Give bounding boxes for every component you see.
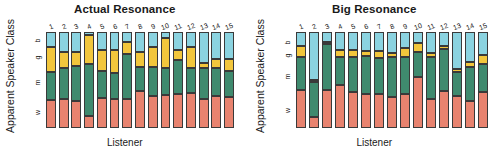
category-tick-label: g (284, 54, 291, 58)
mosaic-segment-b (135, 32, 145, 52)
mosaic-segment-w (387, 97, 397, 128)
column-number-label: 3 (323, 23, 329, 31)
mosaic-segment-b (59, 32, 69, 52)
mosaic-segment-g (186, 47, 196, 68)
mosaic-column: 12 (186, 32, 196, 128)
mosaic-segment-w (135, 91, 145, 128)
mosaic-segment-m (309, 82, 319, 118)
mosaic-column: 4 (84, 32, 94, 128)
mosaic-segment-m (361, 56, 371, 94)
mosaic-segment-w (97, 98, 107, 128)
mosaic-segment-m (71, 66, 81, 102)
mosaic-column: 5 (348, 32, 358, 128)
mosaic-segment-w (110, 99, 120, 128)
mosaic-column: 1 (296, 32, 306, 128)
mosaic-segment-m (348, 57, 358, 92)
column-number-label: 13 (199, 22, 209, 31)
mosaic-column: 8 (387, 32, 397, 128)
mosaic-segment-b (361, 32, 371, 51)
category-tick-g: g (281, 52, 295, 59)
mosaic-segment-w (439, 91, 449, 128)
mosaic-segment-b (46, 32, 56, 47)
column-number-label: 11 (426, 22, 435, 31)
mosaic-segment-g (97, 50, 107, 71)
y-axis-title-text: Apparent Speaker Class (4, 19, 16, 133)
y-axis-title: Apparent Speaker Class (252, 0, 268, 152)
mosaic-segment-b (348, 32, 358, 50)
mosaic-segment-b (199, 32, 209, 63)
mosaic-column: 3 (322, 32, 332, 128)
mosaic-segment-w (148, 96, 158, 128)
mosaic-segment-g (224, 59, 234, 71)
mosaic-segment-b (186, 32, 196, 47)
column-number-label: 12 (439, 22, 449, 31)
column-number-label: 12 (186, 22, 196, 31)
column-number-label: 1 (297, 23, 303, 31)
mosaic-segment-w (465, 101, 475, 128)
mosaic-segment-b (71, 32, 81, 52)
category-tick-w: w (31, 109, 45, 116)
mosaic-column: 15 (224, 32, 234, 128)
mosaic-segment-w (84, 116, 94, 128)
mosaic-segment-w (224, 97, 234, 128)
mosaic-segment-b (296, 32, 306, 46)
column-number-label: 11 (173, 22, 182, 31)
mosaic-segment-w (374, 94, 384, 128)
mosaic-segment-w (413, 77, 423, 128)
mosaic-segment-g (110, 50, 120, 73)
mosaic-segment-m (439, 49, 449, 90)
mosaic-segment-w (426, 99, 436, 128)
mosaic-segment-g (374, 51, 384, 58)
mosaic-segment-b (148, 32, 158, 47)
mosaic-segment-m (322, 44, 332, 89)
mosaic-column: 12 (439, 32, 449, 128)
panel-actual-resonance: Actual Resonance Apparent Speaker Class … (0, 0, 250, 152)
mosaic-segment-w (46, 100, 56, 128)
mosaic-segment-b (387, 32, 397, 53)
category-tick-m: m (281, 73, 295, 80)
column-number-label: 9 (401, 23, 407, 31)
mosaic-segment-w (211, 96, 221, 128)
mosaic-column: 6 (110, 32, 120, 128)
mosaic-segment-b (400, 32, 410, 48)
mosaic-column: 10 (161, 32, 171, 128)
mosaic-segment-m (84, 64, 94, 117)
mosaic-segment-b (122, 32, 132, 42)
mosaic-segment-m (387, 57, 397, 97)
mosaic-plot-actual: 123456789101112131415 (46, 32, 234, 128)
column-number-label: 2 (310, 23, 316, 31)
mosaic-segment-m (199, 68, 209, 99)
column-number-label: 2 (60, 23, 66, 31)
category-tick-b: b (31, 37, 45, 44)
x-axis-title: Listener (0, 137, 250, 148)
mosaic-segment-b (335, 32, 345, 50)
mosaic-segment-m (186, 68, 196, 93)
mosaic-segment-m (110, 73, 120, 99)
mosaic-column: 5 (97, 32, 107, 128)
mosaic-column: 7 (122, 32, 132, 128)
column-number-label: 3 (73, 23, 79, 31)
mosaic-segment-b (426, 32, 436, 53)
mosaic-column: 7 (374, 32, 384, 128)
mosaic-column: 15 (478, 32, 488, 128)
category-axis-right: bgmw (280, 32, 296, 128)
category-axis-left: bgmw (30, 32, 46, 128)
category-tick-label: b (35, 38, 42, 42)
mosaic-segment-m (296, 57, 306, 90)
column-number-label: 4 (336, 23, 342, 31)
mosaic-column: 6 (361, 32, 371, 128)
mosaic-segment-w (309, 117, 319, 128)
mosaic-segment-w (59, 99, 69, 128)
mosaic-segment-m (400, 57, 410, 94)
column-number-label: 8 (388, 23, 394, 31)
mosaic-segment-b (309, 32, 319, 80)
mosaic-segment-w (173, 94, 183, 128)
mosaic-segment-g (400, 48, 410, 57)
mosaic-segment-b (374, 32, 384, 51)
column-number-label: 13 (452, 22, 462, 31)
mosaic-segment-m (374, 58, 384, 94)
y-axis-title: Apparent Speaker Class (2, 0, 18, 152)
category-tick-b: b (281, 39, 295, 46)
mosaic-segment-m (224, 71, 234, 97)
category-tick-label: b (284, 40, 291, 44)
